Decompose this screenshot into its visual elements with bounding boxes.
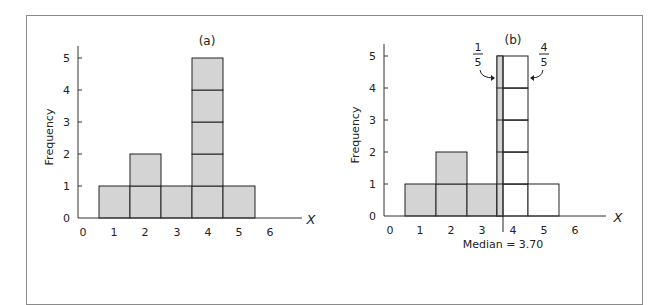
bar-b-x5-box1: [528, 184, 559, 216]
svg-text:1: 1: [417, 224, 424, 237]
bar-b-x1-box1: [405, 184, 436, 216]
svg-text:3: 3: [63, 116, 70, 129]
svg-text:4: 4: [541, 41, 548, 54]
svg-text:5: 5: [475, 56, 482, 69]
arrow-right-head-icon: [491, 75, 495, 81]
panel-a-y-tick-labels: 0 1 2 3 4 5: [63, 52, 70, 225]
panel-a-x-variable: X: [306, 212, 317, 227]
panel-b-label: (b): [505, 33, 522, 47]
svg-text:3: 3: [369, 114, 376, 127]
bar-b-x3-box1: [467, 184, 497, 216]
arrow-left-head-icon: [530, 75, 534, 81]
bar-a-x3-box1: [161, 186, 192, 218]
bar-a-x2-box1: [130, 186, 161, 218]
svg-text:6: 6: [572, 224, 579, 237]
svg-text:2: 2: [369, 146, 376, 159]
svg-text:3: 3: [174, 226, 181, 239]
bar-b-x4-shaded-fraction: [497, 56, 503, 216]
bar-a-x4-box1: [192, 186, 223, 218]
svg-text:0: 0: [80, 226, 87, 239]
svg-text:1: 1: [475, 41, 482, 54]
svg-text:4: 4: [205, 226, 212, 239]
bar-a-x4-box5: [192, 58, 223, 90]
panel-b-y-ticks: [384, 56, 388, 184]
panel-b-y-tick-labels: 0 1 2 3 4 5: [369, 50, 376, 223]
bar-a-x4-box4: [192, 90, 223, 122]
panel-b-x-tick-labels: 0 1 2 3 4 5 6: [387, 224, 579, 237]
bar-a-x5-box1: [223, 186, 255, 218]
svg-text:6: 6: [267, 226, 274, 239]
panel-a-label: (a): [199, 34, 216, 48]
svg-text:0: 0: [387, 224, 394, 237]
svg-text:0: 0: [63, 212, 70, 225]
bar-a-x1-box1: [99, 186, 130, 218]
svg-text:1: 1: [63, 180, 70, 193]
fraction-four-fifths: 4 5: [539, 41, 549, 69]
panel-a-bars: [99, 58, 255, 218]
bar-a-x4-box3: [192, 122, 223, 154]
panel-a-x-tick-labels: 0 1 2 3 4 5 6: [80, 226, 274, 239]
svg-text:0: 0: [369, 210, 376, 223]
panel-b-y-axis-title: Frequency: [349, 106, 362, 163]
svg-text:2: 2: [448, 224, 455, 237]
svg-text:5: 5: [236, 226, 243, 239]
panel-a-y-ticks: [78, 58, 82, 186]
svg-text:2: 2: [142, 226, 149, 239]
panel-b-x-variable: X: [613, 210, 624, 225]
svg-text:5: 5: [63, 52, 70, 65]
bar-a-x4-box2: [192, 154, 223, 186]
bar-a-x2-box2: [130, 154, 161, 186]
median-label: Median = 3.70: [463, 238, 544, 251]
fraction-one-fifth: 1 5: [473, 41, 483, 69]
svg-text:5: 5: [541, 56, 548, 69]
svg-text:4: 4: [369, 82, 376, 95]
bar-b-x2-box1: [436, 184, 467, 216]
bar-b-x2-box2: [436, 152, 467, 184]
svg-text:2: 2: [63, 148, 70, 161]
panel-b: (b): [349, 33, 624, 251]
panel-a-y-axis-title: Frequency: [43, 108, 56, 165]
panel-b-bars: [405, 56, 559, 216]
svg-text:5: 5: [541, 224, 548, 237]
svg-text:4: 4: [63, 84, 70, 97]
svg-text:4: 4: [510, 224, 517, 237]
svg-text:1: 1: [369, 178, 376, 191]
svg-text:1: 1: [111, 226, 118, 239]
svg-text:3: 3: [479, 224, 486, 237]
panel-a: (a) 0: [43, 34, 317, 239]
svg-text:5: 5: [369, 50, 376, 63]
